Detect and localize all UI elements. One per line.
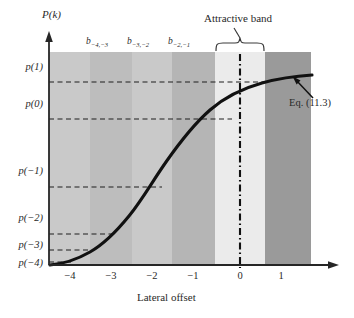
x-tick-minus1: −1 [183,271,203,282]
y-tick-pm4: p(−4) [0,258,43,269]
attractive-band-label: Attractive band [183,13,293,24]
y-tick-p1: p(1) [0,62,43,73]
x-tick-minus2: −2 [142,271,162,282]
x-tick-minus3: −3 [101,271,121,282]
x-tick-minus4: −4 [60,271,80,282]
y-axis-title: P(k) [42,9,61,20]
x-tick-one: 1 [271,271,291,282]
band-b-2-1 [172,52,215,265]
band-rightmost [265,52,311,265]
band-group [49,52,311,265]
attractive-band-brace [216,28,264,51]
band-b-3-2 [132,52,172,265]
band-b-4-3 [90,52,132,265]
y-tick-p0: p(0) [0,99,43,110]
equation-callout-label: Eq. (11.3) [289,98,331,109]
y-tick-pm2: p(−2) [0,213,43,224]
x-tick-zero: 0 [230,271,250,282]
band-label-b-2-1-sub: −2,−1 [173,41,190,48]
band-label-b-4-3-sub: −4,−3 [91,41,108,48]
y-tick-pm3: p(−3) [0,240,43,251]
figure-container: P(k) Lateral offset p(1) p(0) p(−1) p(−2… [0,0,354,318]
brace-stem [234,28,240,38]
band-label-b-2-1: b−2,−1 [159,37,199,47]
band-label-b-3-2-sub: −3,−2 [132,41,149,48]
y-tick-pm1: p(−1) [0,166,43,177]
band-label-b-3-2: b−3,−2 [118,37,158,47]
band-label-b-4-3: b−4,−3 [77,37,117,47]
x-axis-title: Lateral offset [137,292,196,303]
band-leftmost [49,52,90,265]
